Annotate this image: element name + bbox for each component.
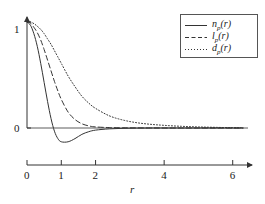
y-axis-ticks [27,22,31,128]
legend-swatch-dashed [185,33,207,42]
legend-swatch-dotted [185,45,207,54]
legend-entry-dp: dp(r) [185,44,231,55]
x-tick-label-2: 2 [93,170,99,181]
x-tick-label-0: 0 [24,170,30,181]
y-tick-label-1: 1 [14,24,20,35]
x-tick-label-1: 1 [58,170,64,181]
x-tick-label-4: 4 [161,170,167,181]
x-tick-label-6: 6 [230,170,236,181]
x-axis-ticks [27,160,233,165]
x-axis-title: r [130,184,134,195]
legend-label-dp: dp(r) [212,43,231,56]
y-tick-label-0: 0 [14,123,20,134]
legend-swatch-solid [185,21,207,30]
figure-chart: 1 0 r np(r) lp(r) dp(r) 01246 [0,0,265,204]
legend: np(r) lp(r) dp(r) [180,14,258,58]
